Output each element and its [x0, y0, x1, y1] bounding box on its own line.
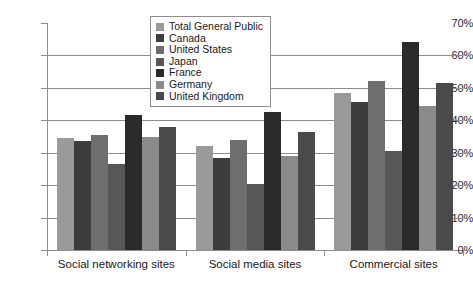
bar	[264, 112, 281, 250]
bar	[57, 138, 74, 250]
legend-item: United Kingdom	[156, 91, 263, 103]
bar	[74, 141, 91, 250]
legend-item-label: Germany	[169, 79, 212, 91]
bar-group	[324, 23, 463, 250]
bar	[402, 42, 419, 250]
legend-swatch-icon	[156, 58, 164, 66]
legend-item-label: Total General Public	[169, 21, 263, 33]
x-axis-tick-mark	[463, 250, 464, 256]
bar	[334, 93, 351, 250]
bar	[108, 164, 125, 250]
x-axis-labels: Social networking sitesSocial media site…	[47, 258, 463, 270]
x-axis-tick-mark	[324, 250, 325, 256]
x-axis-category-label: Social networking sites	[47, 258, 186, 270]
bar	[213, 158, 230, 250]
bar	[91, 135, 108, 250]
chart-legend: Total General PublicCanadaUnited StatesJ…	[150, 16, 271, 107]
x-axis-category-label: Social media sites	[186, 258, 325, 270]
x-axis-line	[47, 250, 463, 251]
bar	[385, 151, 402, 250]
legend-swatch-icon	[156, 92, 164, 100]
x-axis-tick-mark	[186, 250, 187, 256]
legend-item: Total General Public	[156, 21, 263, 33]
legend-swatch-icon	[156, 81, 164, 89]
legend-swatch-icon	[156, 23, 164, 31]
bar	[230, 140, 247, 250]
bar	[142, 137, 159, 251]
legend-item-label: United Kingdom	[169, 91, 244, 103]
x-axis-category-label: Commercial sites	[324, 258, 463, 270]
bar	[247, 184, 264, 250]
bar	[196, 146, 213, 250]
bar	[281, 156, 298, 250]
bar	[125, 115, 142, 250]
legend-item: Germany	[156, 79, 263, 91]
x-axis-tick-mark	[47, 250, 48, 256]
legend-swatch-icon	[156, 69, 164, 77]
legend-swatch-icon	[156, 46, 164, 54]
bar	[159, 127, 176, 250]
bar	[436, 83, 453, 250]
bar	[298, 132, 315, 250]
legend-swatch-icon	[156, 34, 164, 42]
bar	[351, 102, 368, 250]
bar	[419, 106, 436, 250]
bar-chart: 0%10%20%30%40%50%60%70% Social networkin…	[0, 0, 473, 289]
bar	[368, 81, 385, 250]
